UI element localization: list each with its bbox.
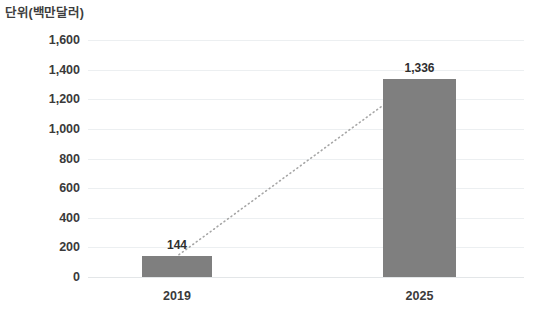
bar-2019 — [142, 256, 212, 277]
y-tick-label: 1,600 — [8, 33, 80, 47]
x-tick-label-2025: 2025 — [406, 289, 434, 303]
gridline — [88, 188, 524, 189]
y-tick-label: 800 — [8, 152, 80, 166]
gridline — [88, 129, 524, 130]
y-tick-label: 400 — [8, 211, 80, 225]
data-label-2025: 1,336 — [404, 61, 434, 75]
gridline — [88, 247, 524, 248]
gridline — [88, 159, 524, 160]
bar-2025 — [383, 79, 456, 277]
gridline — [88, 99, 524, 100]
y-axis: 1,6001,4001,2001,0008006004002000 — [0, 40, 80, 277]
plot-area — [88, 40, 524, 277]
axis-baseline — [88, 277, 524, 278]
gridline — [88, 70, 524, 71]
y-tick-label: 1,200 — [8, 92, 80, 106]
gridline — [88, 40, 524, 41]
bar-chart: 단위(백만달러) 1,6001,4001,2001,00080060040020… — [0, 0, 542, 315]
y-tick-label: 1,000 — [8, 122, 80, 136]
y-tick-label: 200 — [8, 240, 80, 254]
y-tick-label: 1,400 — [8, 63, 80, 77]
chart-title: 단위(백만달러) — [5, 2, 84, 21]
y-tick-label: 600 — [8, 181, 80, 195]
gridline — [88, 218, 524, 219]
y-tick-label: 0 — [8, 270, 80, 284]
data-label-2019: 144 — [167, 238, 187, 252]
x-tick-label-2019: 2019 — [163, 289, 191, 303]
